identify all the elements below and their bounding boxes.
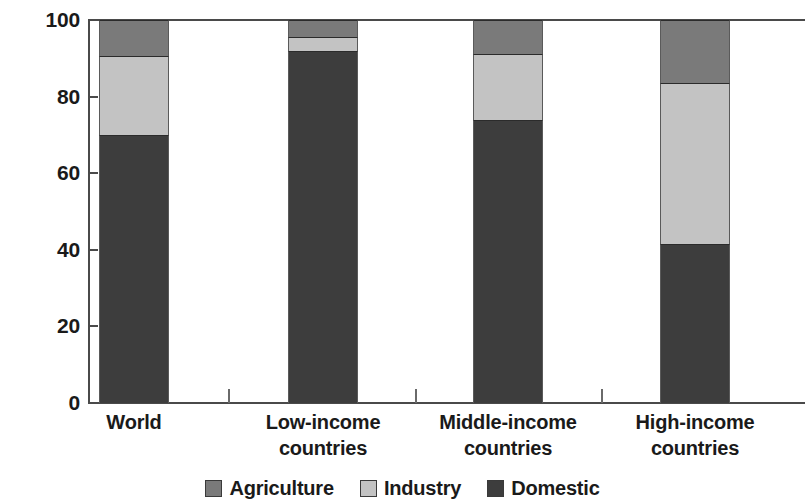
bar-segment-industry bbox=[99, 56, 169, 135]
x-axis-category-line: World bbox=[34, 409, 234, 435]
bar-low-income-countries bbox=[288, 20, 358, 403]
bar-world bbox=[99, 20, 169, 403]
y-axis-tick-label: 60 bbox=[6, 162, 80, 183]
chart-legend: AgricultureIndustryDomestic bbox=[0, 478, 805, 498]
y-axis-tick-label: 80 bbox=[6, 86, 80, 107]
x-axis-tick bbox=[228, 389, 230, 403]
legend-swatch-icon bbox=[205, 480, 222, 497]
y-axis-tick bbox=[88, 249, 98, 251]
bar-segment-domestic bbox=[660, 244, 730, 403]
bar-segment-industry bbox=[288, 37, 358, 50]
bar-segment-industry bbox=[473, 54, 543, 119]
legend-label: Industry bbox=[384, 478, 461, 498]
x-axis-category-label: World bbox=[34, 409, 234, 435]
y-axis-tick bbox=[88, 172, 98, 174]
x-axis-category-label: Middle-incomecountries bbox=[408, 409, 608, 462]
y-axis-line bbox=[88, 19, 90, 404]
y-axis-tick-label: 20 bbox=[6, 315, 80, 336]
legend-label: Domestic bbox=[511, 478, 599, 498]
x-axis-category-label: High-incomecountries bbox=[595, 409, 795, 462]
x-axis-tick bbox=[415, 389, 417, 403]
x-axis-category-line: Low-income bbox=[223, 409, 423, 435]
bar-segment-domestic bbox=[288, 51, 358, 403]
y-axis-tick-label: 100 bbox=[6, 9, 80, 30]
x-axis-category-label: Low-incomecountries bbox=[223, 409, 423, 462]
x-axis-category-line: countries bbox=[595, 435, 795, 461]
bar-segment-domestic bbox=[473, 120, 543, 403]
legend-label: Agriculture bbox=[229, 478, 333, 498]
legend-item-domestic: Domestic bbox=[487, 478, 599, 498]
x-axis-category-line: countries bbox=[408, 435, 608, 461]
bar-segment-agriculture bbox=[288, 20, 358, 37]
legend-swatch-icon bbox=[360, 480, 377, 497]
bar-middle-income-countries bbox=[473, 20, 543, 403]
legend-item-industry: Industry bbox=[360, 478, 461, 498]
bar-segment-agriculture bbox=[473, 20, 543, 54]
y-axis-tick bbox=[88, 96, 98, 98]
bar-segment-agriculture bbox=[99, 20, 169, 56]
x-axis-tick bbox=[601, 389, 603, 403]
bar-high-income-countries bbox=[660, 20, 730, 403]
x-axis-category-line: countries bbox=[223, 435, 423, 461]
bar-segment-domestic bbox=[99, 135, 169, 403]
x-axis-category-line: Middle-income bbox=[408, 409, 608, 435]
legend-item-agriculture: Agriculture bbox=[205, 478, 333, 498]
bar-segment-agriculture bbox=[660, 20, 730, 83]
y-axis-tick-label: 40 bbox=[6, 239, 80, 260]
stacked-bar-chart: 020406080100 WorldLow-incomecountriesMid… bbox=[0, 0, 805, 504]
x-axis-category-line: High-income bbox=[595, 409, 795, 435]
bar-segment-industry bbox=[660, 83, 730, 244]
y-axis-tick bbox=[88, 325, 98, 327]
legend-swatch-icon bbox=[487, 480, 504, 497]
